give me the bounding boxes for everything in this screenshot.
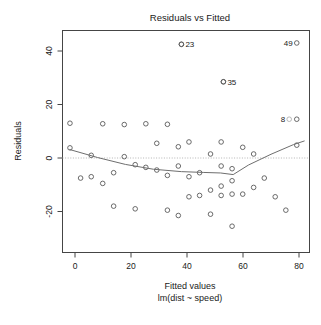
y-tick-label: 20 [44,100,54,110]
data-point [133,207,138,212]
data-point [273,194,278,199]
data-point [251,152,256,157]
data-point [78,176,83,181]
data-point [208,212,213,217]
y-axis-ticks: -2002040 [44,46,63,218]
data-point [154,141,159,146]
page-title: Residuals vs Fitted [150,12,230,23]
data-point [284,208,289,213]
chart-canvas: 020406080 -2002040 2335498 Residuals vs … [0,0,321,325]
data-point [68,121,73,126]
data-point [100,121,105,126]
data-point [111,170,116,175]
data-point [165,122,170,127]
x-tick-label: 20 [126,261,136,271]
data-point [294,117,299,122]
data-point [187,194,192,199]
residuals-vs-fitted-plot: 020406080 -2002040 2335498 Residuals vs … [0,0,321,325]
model-formula-label: lm(dist ~ speed) [158,293,222,303]
x-tick-label: 80 [294,261,304,271]
data-point [230,192,235,197]
data-point [230,166,235,171]
outlier-point [294,41,299,46]
x-axis-label: Fitted values [164,281,216,291]
data-point [208,152,213,157]
data-points [68,42,299,229]
data-point [165,173,170,178]
data-point [176,144,181,149]
plot-border [63,31,310,253]
outlier-label: 8 [281,115,286,124]
data-point [262,176,267,181]
data-point [251,185,256,190]
data-point [230,178,235,183]
y-tick-label: -20 [44,205,54,218]
data-point [122,154,127,159]
data-point [230,224,235,229]
x-tick-label: 0 [73,261,78,271]
outlier-labels: 2335498 [179,39,299,124]
x-tick-label: 60 [238,261,248,271]
data-point [219,184,224,189]
data-point [219,164,224,169]
data-point [111,204,116,209]
y-axis-label: Residuals [13,121,23,161]
data-point [144,121,149,126]
data-point [176,213,181,218]
outlier-label: 35 [227,78,236,87]
data-point [219,140,224,145]
x-axis-ticks: 020406080 [73,253,304,271]
data-point [187,174,192,179]
data-point [240,192,245,197]
x-tick-label: 40 [182,261,192,271]
data-point [122,122,127,127]
data-point [197,193,202,198]
y-tick-label: 0 [44,155,54,160]
data-point [208,188,213,193]
data-point [176,164,181,169]
outlier-point [287,117,292,122]
data-point [100,181,105,186]
data-point [187,140,192,145]
y-tick-label: 40 [44,46,54,56]
data-point [89,174,94,179]
data-point [165,208,170,213]
outlier-point [179,42,184,47]
data-point [240,145,245,150]
outlier-label: 23 [185,40,194,49]
data-point [219,193,224,198]
outlier-point [221,79,226,84]
plot-frame [63,31,310,253]
outlier-label: 49 [284,39,293,48]
